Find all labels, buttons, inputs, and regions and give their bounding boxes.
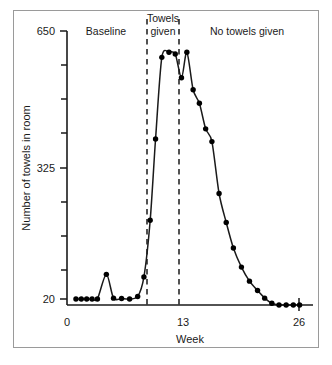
data-point	[73, 296, 78, 301]
data-point	[297, 302, 302, 307]
phase-label-towels-given-line1: Towels	[147, 12, 179, 24]
data-point	[239, 264, 244, 269]
y-axis-title: Number of towels in room	[20, 105, 32, 230]
phase-label-baseline: Baseline	[86, 25, 126, 37]
series-line	[76, 50, 300, 305]
data-point	[79, 296, 84, 301]
data-point	[209, 139, 214, 144]
data-point	[166, 50, 171, 55]
x-axis-title: Week	[176, 333, 204, 345]
data-point	[179, 75, 184, 80]
x-axis-tick-labels: 0 13 26	[64, 316, 305, 328]
data-point	[224, 220, 229, 225]
data-point	[95, 296, 100, 301]
series-markers	[73, 50, 302, 308]
data-point	[203, 126, 208, 131]
data-point	[141, 274, 146, 279]
y-tick-label-650: 650	[37, 25, 55, 37]
data-point	[159, 55, 164, 60]
data-point	[283, 302, 288, 307]
data-point	[262, 295, 267, 300]
line-chart: 650 325 20 Number of towels in room 0 13…	[14, 11, 318, 347]
data-point	[190, 87, 195, 92]
data-point	[276, 302, 281, 307]
data-point	[147, 218, 152, 223]
data-point	[184, 50, 189, 55]
data-point	[247, 278, 252, 283]
data-point	[104, 272, 109, 277]
phase-label-no-towels-given: No towels given	[210, 25, 284, 37]
data-point	[127, 296, 132, 301]
x-tick-label-26: 26	[293, 316, 305, 328]
data-point	[231, 245, 236, 250]
data-point	[216, 191, 221, 196]
data-point	[89, 296, 94, 301]
data-point	[119, 296, 124, 301]
phase-labels: Baseline Towels given No towels given	[86, 12, 284, 37]
data-point	[135, 294, 140, 299]
y-axis-tick-labels: 650 325 20	[37, 25, 55, 305]
data-point	[291, 302, 296, 307]
y-tick-label-20: 20	[43, 293, 55, 305]
data-point	[153, 136, 158, 141]
figure-root: 650 325 20 Number of towels in room 0 13…	[0, 0, 332, 365]
data-point	[173, 51, 178, 56]
figure-frame: 650 325 20 Number of towels in room 0 13…	[13, 10, 319, 348]
y-tick-label-325: 325	[37, 162, 55, 174]
phase-divider-lines	[147, 19, 179, 305]
phase-label-towels-given-line2: given	[150, 25, 175, 37]
y-axis-ticks	[60, 31, 67, 299]
data-point	[269, 301, 274, 306]
data-series-towels	[73, 50, 302, 308]
data-point	[84, 296, 89, 301]
x-tick-label-13: 13	[177, 316, 189, 328]
data-point	[197, 101, 202, 106]
caption-edge-sliver	[322, 300, 332, 362]
x-tick-label-0: 0	[64, 316, 70, 328]
data-point	[111, 295, 116, 300]
data-point	[255, 288, 260, 293]
